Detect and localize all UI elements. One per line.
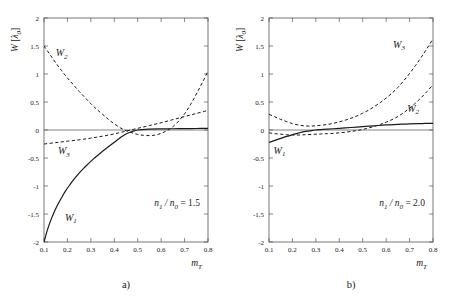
figure-container: 0.10.20.30.40.50.60.70.8-2-1.5-1-0.500.5… bbox=[0, 0, 449, 302]
chart-panel-a: 0.10.20.30.40.50.60.70.8-2-1.5-1-0.500.5… bbox=[0, 0, 224, 302]
density-ratio-annotation: n1 / n0 = 2.0 bbox=[379, 198, 425, 211]
density-ratio-annotation: n1 / n0 = 1.5 bbox=[154, 198, 200, 211]
panel-caption: a) bbox=[122, 279, 131, 291]
x-tick-label: 0.7 bbox=[405, 246, 414, 254]
curve-label-W3: W3 bbox=[393, 39, 405, 53]
plot-svg-b: 0.10.20.30.40.50.60.70.8-2-1.5-1-0.500.5… bbox=[225, 0, 449, 302]
x-tick-label: 0.2 bbox=[288, 246, 297, 254]
y-tick-label: 2 bbox=[36, 15, 40, 23]
y-tick-label: -0.5 bbox=[253, 155, 265, 163]
x-tick-label: 0.4 bbox=[110, 246, 119, 254]
x-tick-label: 0.3 bbox=[86, 246, 95, 254]
y-tick-label: -2 bbox=[33, 239, 39, 247]
x-tick-label: 0.8 bbox=[429, 246, 438, 254]
y-tick-label: -1 bbox=[258, 183, 264, 191]
y-tick-label: 1 bbox=[261, 71, 265, 79]
x-tick-label: 0.1 bbox=[40, 246, 49, 254]
y-tick-label: 2 bbox=[261, 15, 265, 23]
y-tick-label: -2 bbox=[258, 239, 264, 247]
y-tick-label: 0 bbox=[261, 127, 265, 135]
x-tick-label: 0.6 bbox=[157, 246, 166, 254]
x-tick-label: 0.2 bbox=[63, 246, 72, 254]
curve-W1 bbox=[269, 123, 433, 142]
plot-b-content: 0.10.20.30.40.50.60.70.8-2-1.5-1-0.500.5… bbox=[235, 15, 438, 292]
x-tick-label: 0.8 bbox=[204, 246, 213, 254]
y-tick-label: -1.5 bbox=[28, 211, 40, 219]
curve-label-W3: W3 bbox=[58, 145, 70, 159]
curve-W2 bbox=[44, 46, 208, 136]
x-tick-label: 0.5 bbox=[358, 246, 367, 254]
x-tick-label: 0.3 bbox=[311, 246, 320, 254]
y-tick-label: -1 bbox=[33, 183, 39, 191]
y-tick-label: 0.5 bbox=[255, 99, 264, 107]
y-tick-label: 1.5 bbox=[255, 43, 264, 51]
x-tick-label: 0.4 bbox=[335, 246, 344, 254]
x-tick-label: 0.6 bbox=[382, 246, 391, 254]
y-tick-label: -1.5 bbox=[253, 211, 265, 219]
plot-svg-a: 0.10.20.30.40.50.60.70.8-2-1.5-1-0.500.5… bbox=[0, 0, 224, 302]
y-tick-label: 0.5 bbox=[30, 99, 39, 107]
x-tick-label: 0.7 bbox=[180, 246, 189, 254]
panel-caption: b) bbox=[347, 279, 356, 291]
y-axis-title: W [λ0] bbox=[235, 28, 248, 52]
curve-W1 bbox=[44, 128, 208, 242]
x-tick-label: 0.5 bbox=[133, 246, 142, 254]
y-tick-label: 1.5 bbox=[30, 43, 39, 51]
y-tick-label: -0.5 bbox=[28, 155, 40, 163]
x-axis-title: mT bbox=[191, 258, 203, 271]
x-tick-label: 0.1 bbox=[265, 246, 274, 254]
curve-label-W2: W2 bbox=[407, 103, 419, 117]
y-tick-label: 0 bbox=[36, 127, 40, 135]
y-tick-label: 1 bbox=[36, 71, 40, 79]
x-axis-title: mT bbox=[416, 258, 428, 271]
chart-panel-b: 0.10.20.30.40.50.60.70.8-2-1.5-1-0.500.5… bbox=[225, 0, 449, 302]
curve-label-W2: W2 bbox=[56, 47, 68, 61]
y-axis-title: W [λ0] bbox=[10, 28, 23, 52]
curve-label-W1: W1 bbox=[274, 145, 286, 159]
curve-label-W1: W1 bbox=[65, 212, 77, 226]
plot-a-content: 0.10.20.30.40.50.60.70.8-2-1.5-1-0.500.5… bbox=[10, 15, 213, 292]
curve-W3 bbox=[44, 110, 208, 144]
